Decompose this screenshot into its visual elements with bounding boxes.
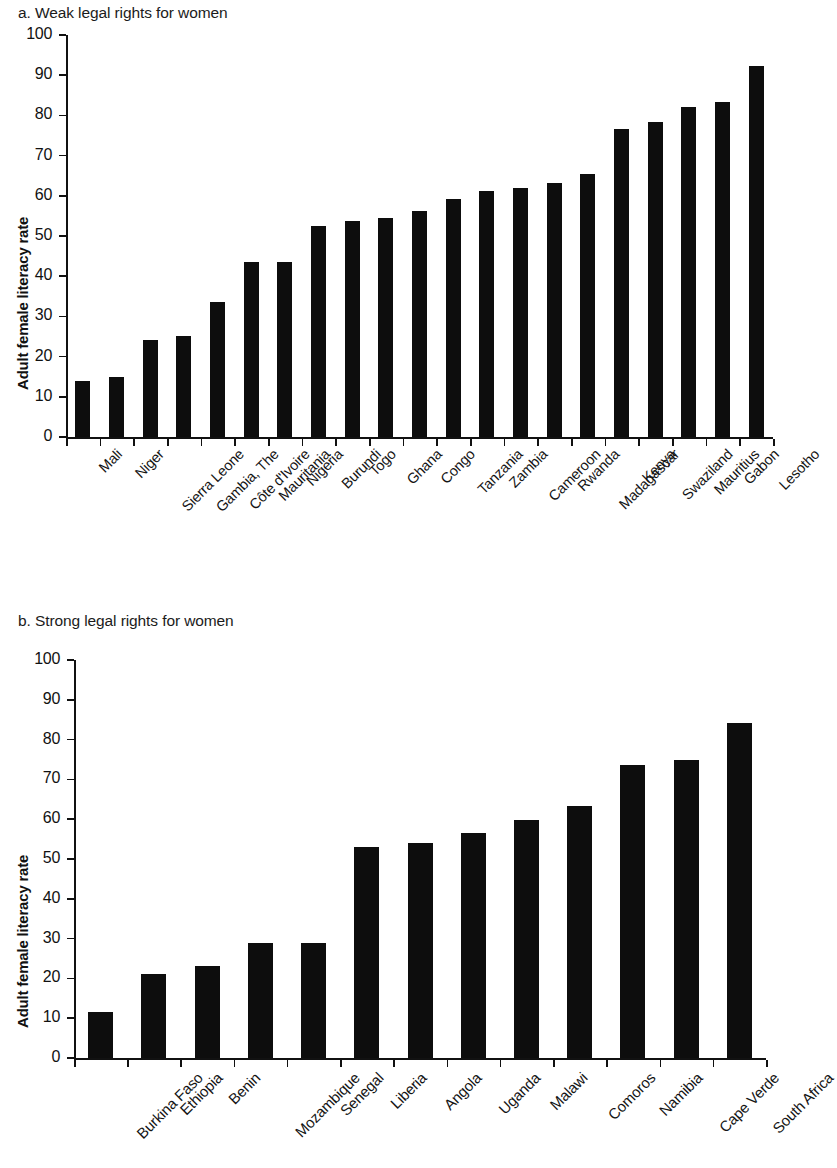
y-axis-tick — [59, 396, 66, 398]
bar — [143, 340, 158, 437]
x-axis-tick — [335, 439, 337, 446]
bar — [674, 760, 699, 1058]
x-axis-tick-label: Angola — [440, 1069, 484, 1113]
y-axis-tick-label: 0 — [10, 427, 52, 445]
bar — [479, 191, 494, 437]
y-axis-tick — [59, 235, 66, 237]
y-axis-tick-label: 60 — [10, 186, 52, 204]
y-axis-tick — [67, 818, 74, 820]
x-axis-tick — [606, 1060, 608, 1067]
bar — [210, 302, 225, 437]
y-axis-tick — [59, 34, 66, 36]
x-axis-line — [66, 437, 773, 439]
x-axis-tick — [66, 439, 68, 446]
y-axis-tick-label: 40 — [10, 266, 52, 284]
x-axis-tick — [470, 439, 472, 446]
y-axis-tick-label: 10 — [10, 387, 52, 405]
panel-a-plot-area: 0102030405060708090100MaliNigerSierra Le… — [0, 0, 779, 567]
y-axis-tick-label: 80 — [10, 105, 52, 123]
x-axis-tick-label: Congo — [437, 446, 478, 487]
y-axis-tick-label: 10 — [18, 1008, 60, 1026]
y-axis-tick-label: 30 — [10, 306, 52, 324]
y-axis-tick-label: 100 — [18, 650, 60, 668]
x-axis-tick — [127, 1060, 129, 1067]
x-axis-tick — [766, 1060, 768, 1067]
panel-b-plot-area: 0102030405060708090100Burkina FasoEthiop… — [0, 608, 779, 1168]
y-axis-tick — [67, 739, 74, 741]
x-axis-tick — [287, 1060, 289, 1067]
y-axis-tick — [59, 115, 66, 117]
bar — [141, 974, 166, 1058]
bar — [648, 122, 663, 437]
x-axis-tick — [268, 439, 270, 446]
x-axis-tick — [537, 439, 539, 446]
x-axis-tick — [393, 1060, 395, 1067]
x-axis-tick — [436, 439, 438, 446]
y-axis-tick — [67, 1017, 74, 1019]
bar — [461, 833, 486, 1058]
y-axis-line — [74, 660, 76, 1060]
chart-panel-b: b. Strong legal rights for women Adult f… — [0, 608, 779, 1168]
y-axis-tick-label: 60 — [18, 809, 60, 827]
x-axis-tick — [553, 1060, 555, 1067]
y-axis-tick-label: 90 — [18, 690, 60, 708]
y-axis-tick — [67, 779, 74, 781]
y-axis-tick — [59, 436, 66, 438]
bar — [547, 183, 562, 437]
chart-panel-a: a. Weak legal rights for women Adult fem… — [0, 0, 779, 585]
bar — [715, 102, 730, 437]
y-axis-tick — [59, 275, 66, 277]
bar — [567, 806, 592, 1058]
y-axis-tick — [67, 898, 74, 900]
x-axis-tick — [605, 439, 607, 446]
y-axis-line — [66, 35, 68, 439]
y-axis-tick-label: 30 — [18, 929, 60, 947]
x-axis-tick — [672, 439, 674, 446]
x-axis-tick — [167, 439, 169, 446]
y-axis-tick — [59, 316, 66, 318]
bar — [514, 820, 539, 1058]
bar — [727, 723, 752, 1058]
y-axis-tick-label: 50 — [10, 226, 52, 244]
x-axis-tick — [660, 1060, 662, 1067]
y-axis-tick-label: 70 — [10, 146, 52, 164]
bar — [354, 847, 379, 1058]
x-axis-tick — [571, 439, 573, 446]
x-axis-line — [74, 1058, 766, 1060]
x-axis-tick — [773, 439, 775, 446]
y-axis-tick — [67, 938, 74, 940]
bar — [345, 221, 360, 437]
y-axis-tick-label: 90 — [10, 65, 52, 83]
y-axis-tick-label: 40 — [18, 889, 60, 907]
x-axis-tick-label: Comoros — [604, 1069, 658, 1123]
y-axis-tick — [59, 155, 66, 157]
x-axis-tick-label: Ghana — [403, 446, 444, 487]
x-axis-tick — [74, 1060, 76, 1067]
x-axis-tick-label: Malawi — [547, 1069, 591, 1113]
bar — [248, 943, 273, 1058]
y-axis-tick — [67, 659, 74, 661]
bar — [408, 843, 433, 1058]
y-axis-tick — [59, 74, 66, 76]
y-axis-tick-label: 0 — [18, 1048, 60, 1066]
x-axis-tick — [234, 1060, 236, 1067]
y-axis-tick — [59, 356, 66, 358]
x-axis-tick — [638, 439, 640, 446]
bar — [176, 336, 191, 437]
y-axis-tick-label: 70 — [18, 769, 60, 787]
y-axis-tick — [59, 195, 66, 197]
x-axis-tick — [739, 439, 741, 446]
bar — [513, 188, 528, 437]
bar — [311, 226, 326, 437]
x-axis-tick-label: Liberia — [387, 1069, 430, 1112]
y-axis-tick — [67, 1057, 74, 1059]
x-axis-tick — [302, 439, 304, 446]
x-axis-tick — [504, 439, 506, 446]
x-axis-tick — [403, 439, 405, 446]
bar — [681, 107, 696, 437]
x-axis-tick-label: Niger — [131, 446, 166, 481]
bar — [301, 943, 326, 1058]
bar — [614, 129, 629, 437]
x-axis-tick — [369, 439, 371, 446]
bar — [75, 381, 90, 437]
